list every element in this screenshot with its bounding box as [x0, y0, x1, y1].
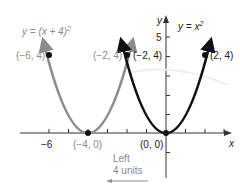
x-axis: [20, 129, 232, 136]
point-neg6-4: [46, 52, 52, 58]
decorative-arc: [128, 69, 228, 85]
equation-base-label: y = x2: [177, 20, 203, 32]
y-axis: [163, 15, 170, 178]
shift-annotation-line1: Left: [113, 153, 130, 164]
point-neg2-4-label: (−2, 4): [133, 50, 162, 61]
point-origin: [163, 130, 169, 136]
parabola-base-right-arrow-icon: [209, 44, 210, 48]
equation-shifted-label: y = (x + 4)2: [21, 25, 71, 37]
parabola-shifted-right-arrow-icon: [131, 44, 132, 48]
point-neg6-4-label: (−6, 4): [16, 50, 45, 61]
parabola-shifted-left-arrow-icon: [44, 44, 45, 48]
point-neg2-4-gray-label: (−2, 4): [93, 50, 122, 61]
shift-annotation-line2: 4 units: [113, 165, 142, 176]
point-neg2-4: [124, 52, 130, 58]
x-tick-label-neg6: −6: [41, 139, 53, 150]
point-2-4: [202, 52, 208, 58]
x-axis-label: x: [228, 138, 235, 149]
point-neg4-0: [85, 130, 91, 136]
point-2-4-label: (2, 4): [210, 50, 233, 61]
shift-left-arrow-icon: [106, 179, 112, 183]
point-neg4-0-label: (−4, 0): [73, 139, 102, 150]
y-axis-label: y: [156, 15, 163, 26]
x-axis-arrow-icon: [224, 130, 232, 136]
y-axis-arrow-icon: [163, 15, 169, 23]
graph-canvas: y = (x + 4)2 y = x2 (−6, 4) (−2, 4) (−2,…: [0, 0, 240, 188]
y-tick-label-5: 5: [156, 32, 162, 43]
point-origin-label: (0, 0): [140, 139, 163, 150]
x-axis-ticks: [49, 129, 224, 133]
parabola-base-left-arrow-icon: [122, 44, 123, 48]
